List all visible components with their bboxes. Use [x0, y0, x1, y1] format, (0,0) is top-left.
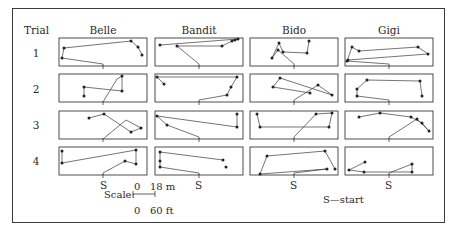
- waypoint-dot: [121, 75, 124, 78]
- start-legend: S—start: [323, 195, 364, 205]
- waypoint-dot: [137, 46, 140, 49]
- waypoint-dot: [83, 95, 86, 98]
- waypoint-dot: [358, 116, 361, 119]
- start-label-bido: S: [290, 180, 297, 191]
- waypoint-dot: [176, 45, 179, 48]
- waypoint-dot: [234, 39, 237, 42]
- waypoint-dot: [166, 124, 169, 127]
- waypoint-dot: [140, 127, 143, 130]
- waypoint-dot: [63, 47, 66, 50]
- waypoint-dot: [411, 163, 414, 166]
- waypoint-dot: [364, 161, 367, 164]
- path-panel-gigi-trial-2: [345, 74, 433, 105]
- waypoint-dot: [225, 166, 228, 169]
- search-path: [260, 151, 335, 175]
- search-path: [157, 114, 237, 139]
- start-label-gigi: S: [385, 180, 392, 191]
- waypoint-dot: [421, 95, 424, 98]
- waypoint-dot: [121, 90, 124, 93]
- waypoint-dot: [159, 44, 162, 47]
- waypoint-dot: [156, 115, 159, 118]
- waypoint-dot: [130, 40, 133, 43]
- waypoint-dot: [61, 162, 64, 165]
- search-path-grid: [0, 0, 460, 233]
- waypoint-dot: [130, 131, 133, 134]
- waypoint-dot: [272, 86, 275, 89]
- waypoint-dot: [428, 130, 431, 133]
- waypoint-dot: [159, 151, 162, 154]
- search-path: [89, 114, 141, 139]
- search-path: [257, 113, 332, 139]
- path-panel-bido-trial-2: [250, 74, 338, 105]
- waypoint-dot: [88, 117, 91, 120]
- waypoint-dot: [256, 113, 259, 116]
- waypoint-dot: [135, 149, 138, 152]
- waypoint-dot: [317, 84, 320, 87]
- waypoint-dot: [331, 112, 334, 115]
- waypoint-dot: [351, 46, 354, 49]
- waypoint-dot: [61, 57, 64, 60]
- waypoint-dot: [124, 160, 127, 163]
- search-path: [160, 152, 223, 175]
- waypoint-dot: [277, 49, 280, 52]
- waypoint-dot: [427, 53, 430, 56]
- path-panel-gigi-trial-3: [345, 111, 433, 142]
- search-path: [273, 78, 332, 102]
- search-path: [62, 41, 142, 66]
- path-panel-bandit-trial-3: [155, 111, 243, 142]
- waypoint-dot: [159, 160, 162, 163]
- path-panel-bandit-trial-4: [155, 147, 243, 178]
- waypoint-dot: [356, 88, 359, 91]
- search-path: [272, 41, 309, 66]
- waypoint-dot: [324, 150, 327, 153]
- waypoint-dot: [366, 79, 369, 82]
- waypoint-dot: [326, 168, 329, 171]
- waypoint-dot: [221, 45, 224, 48]
- waypoint-dot: [308, 40, 311, 43]
- waypoint-dot: [141, 54, 144, 57]
- waypoint-dot: [103, 113, 106, 116]
- start-label-bandit: S: [195, 180, 202, 191]
- waypoint-dot: [416, 118, 419, 121]
- path-panel-bido-trial-1: [250, 38, 338, 69]
- waypoint-dot: [226, 94, 229, 97]
- waypoint-dot: [259, 126, 262, 129]
- waypoint-dot: [348, 169, 351, 172]
- waypoint-dot: [347, 59, 350, 62]
- waypoint-dot: [230, 86, 233, 89]
- waypoint-dot: [231, 40, 234, 43]
- waypoint-dot: [61, 150, 64, 153]
- waypoint-dot: [237, 38, 240, 41]
- waypoint-dot: [278, 42, 281, 45]
- waypoint-dot: [236, 126, 239, 129]
- path-panel-belle-trial-3: [59, 111, 147, 142]
- waypoint-dot: [159, 166, 162, 169]
- path-panel-bandit-trial-2: [155, 74, 243, 105]
- search-path: [84, 76, 122, 102]
- waypoint-dot: [135, 163, 138, 166]
- path-panel-belle-trial-2: [59, 74, 147, 105]
- waypoint-dot: [419, 80, 422, 83]
- waypoint-dot: [417, 46, 420, 49]
- waypoint-dot: [271, 57, 274, 60]
- waypoint-dot: [266, 155, 269, 158]
- waypoint-dot: [156, 76, 159, 79]
- waypoint-dot: [410, 116, 413, 119]
- path-panel-bido-trial-4: [250, 147, 338, 178]
- search-path: [357, 80, 422, 102]
- waypoint-dot: [379, 112, 382, 115]
- path-panel-gigi-trial-4: [345, 147, 433, 178]
- path-panel-belle-trial-1: [59, 38, 147, 69]
- waypoint-dot: [421, 122, 424, 125]
- scale-metric-label: 0 18 m: [134, 182, 175, 192]
- search-path: [160, 39, 238, 66]
- scale-label: Scale:: [104, 190, 135, 200]
- path-panel-belle-trial-4: [59, 147, 147, 178]
- waypoint-dot: [279, 77, 282, 80]
- path-panel-gigi-trial-1: [345, 38, 433, 69]
- waypoint-dot: [309, 92, 312, 95]
- waypoint-dot: [236, 113, 239, 116]
- waypoint-dot: [306, 52, 309, 55]
- waypoint-dot: [222, 159, 225, 162]
- waypoint-dot: [411, 171, 414, 174]
